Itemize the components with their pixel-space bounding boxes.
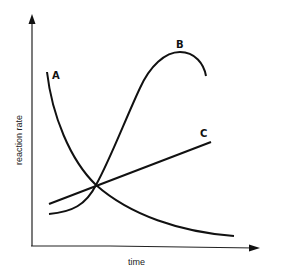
x-axis-right	[110, 246, 255, 248]
curve-b-label: B	[176, 39, 184, 50]
curve-c-label: C	[200, 128, 207, 139]
curve-a	[47, 72, 234, 236]
y-axis-label: reaction rate	[14, 115, 24, 165]
x-axis-arrow-icon	[249, 245, 260, 252]
chart: A B C time reaction rate	[0, 0, 284, 276]
curve-a-label: A	[52, 70, 60, 81]
x-axis-label: time	[128, 257, 145, 267]
curve-c	[49, 142, 211, 204]
curve-b	[49, 52, 206, 214]
y-axis-arrow-icon	[29, 14, 36, 24]
